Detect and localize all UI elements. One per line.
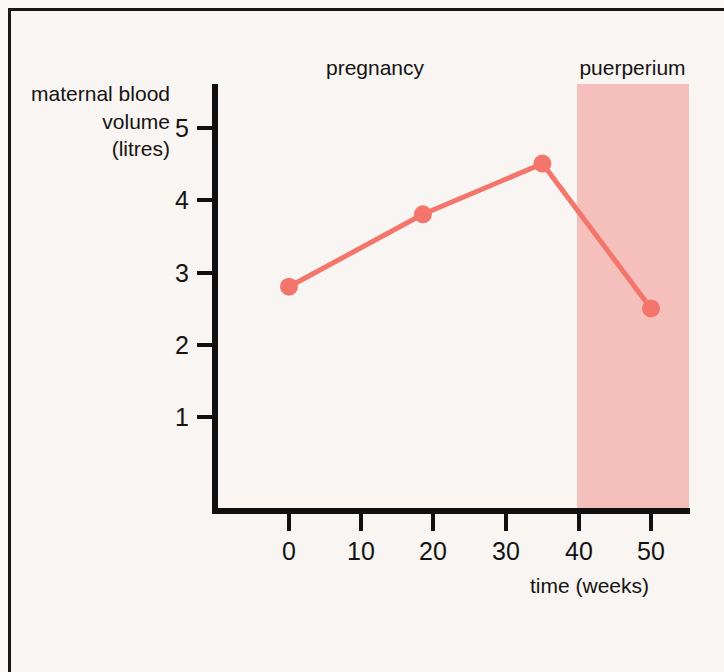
region-label-puerperium: puerperium xyxy=(545,57,720,78)
y-tick-2 xyxy=(197,343,213,347)
y-axis-line xyxy=(212,84,218,514)
y-tick-label-3: 3 xyxy=(155,261,189,286)
y-tick-label-1: 1 xyxy=(155,405,189,430)
x-tick-label-30: 30 xyxy=(482,539,530,564)
y-axis-title: maternal blood volume (litres) xyxy=(18,80,170,163)
y-axis-title-line-2: volume xyxy=(18,108,170,136)
x-tick-label-20: 20 xyxy=(409,539,457,564)
x-tick-label-0: 0 xyxy=(265,539,313,564)
y-tick-1 xyxy=(197,415,213,419)
x-tick-label-10: 10 xyxy=(337,539,385,564)
x-tick-20 xyxy=(431,514,435,531)
x-tick-10 xyxy=(359,514,363,531)
frame-left-rule xyxy=(8,8,11,672)
x-tick-50 xyxy=(649,514,653,531)
frame-top-rule xyxy=(8,8,724,11)
x-tick-label-50: 50 xyxy=(627,539,675,564)
y-tick-label-4: 4 xyxy=(155,188,189,213)
y-axis-title-line-3: (litres) xyxy=(18,135,170,163)
y-tick-4 xyxy=(197,198,213,202)
x-axis-line xyxy=(212,508,690,514)
x-tick-30 xyxy=(504,514,508,531)
puerperium-shaded-region xyxy=(577,84,689,510)
y-tick-5 xyxy=(197,126,213,130)
x-axis-title: time (weeks) xyxy=(530,575,649,596)
x-tick-0 xyxy=(287,514,291,531)
y-tick-3 xyxy=(197,271,213,275)
y-axis-title-line-1: maternal blood xyxy=(18,80,170,108)
figure-container: pregnancy puerperium 1 2 3 4 5 0 10 20 3… xyxy=(0,0,724,672)
x-tick-40 xyxy=(577,514,581,531)
y-tick-label-2: 2 xyxy=(155,333,189,358)
region-label-pregnancy: pregnancy xyxy=(285,57,465,78)
x-tick-label-40: 40 xyxy=(555,539,603,564)
